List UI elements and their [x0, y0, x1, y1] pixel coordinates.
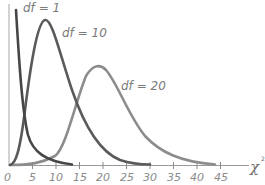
- tick-label: 15: [73, 171, 87, 184]
- tick-label: 30: [143, 171, 157, 184]
- x-tick-labels: 0 5 10 15 20 25 30 35 40 45: [4, 171, 228, 184]
- tick-label: 35: [167, 171, 181, 184]
- chi-square-chart: 0 5 10 15 20 25 30 35 40 45 χ 2 df = 1 d…: [0, 0, 265, 185]
- tick-label: 25: [120, 171, 134, 184]
- label-df-20: df = 20: [121, 79, 166, 93]
- curve-df-20: [10, 66, 215, 165]
- label-df-1: df = 1: [23, 1, 60, 15]
- tick-label: 45: [214, 171, 228, 184]
- tick-label: 0: [4, 171, 11, 184]
- x-axis-title: χ: [249, 158, 260, 176]
- tick-label: 40: [190, 171, 204, 184]
- tick-label: 5: [29, 171, 36, 184]
- label-df-10: df = 10: [62, 26, 107, 40]
- tick-label: 10: [49, 171, 63, 184]
- tick-label: 20: [96, 171, 110, 184]
- x-axis-title-superscript: 2: [261, 155, 265, 162]
